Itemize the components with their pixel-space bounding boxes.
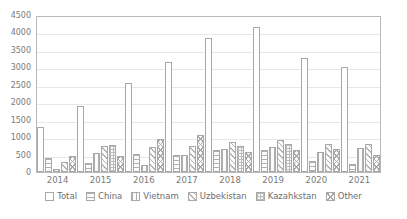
bar-china-2019: [261, 150, 268, 172]
bar-total-2014: [37, 127, 44, 172]
bar-china-2016: [133, 154, 140, 172]
bar-uzbekistan-2016: [149, 147, 156, 172]
legend-item-label: Kazahkstan: [268, 192, 317, 201]
bar-total-2015: [77, 106, 84, 172]
y-axis-tick-label: 500: [16, 152, 31, 160]
bar-vietnam-2019: [269, 147, 276, 172]
legend-item-label: Vietnam: [143, 192, 178, 201]
y-axis: 450040003500300025002000150010005000: [0, 16, 34, 173]
bar-china-2020: [309, 161, 316, 173]
legend-item-uzbekistan[interactable]: Uzbekistan: [188, 192, 247, 201]
bar-group-2021: [341, 17, 380, 172]
bar-total-2017: [165, 62, 172, 172]
bar-other-2016: [157, 139, 164, 172]
y-axis-tick-label: 4500: [11, 12, 31, 20]
bar-total-2021: [341, 67, 348, 172]
y-axis-tick-label: 2500: [11, 82, 31, 90]
bar-china-2018: [213, 150, 220, 172]
bar-group-2014: [37, 17, 76, 172]
bar-other-2020: [333, 149, 340, 172]
bar-total-2018: [205, 38, 212, 172]
bar-other-2014: [69, 156, 76, 172]
bar-kazahkstan-2015: [109, 145, 116, 172]
legend-swatch-other-icon: [326, 192, 335, 201]
legend-item-other[interactable]: Other: [326, 192, 362, 201]
legend-item-label: Total: [57, 192, 77, 201]
bar-vietnam-2016: [141, 165, 148, 172]
bar-china-2017: [173, 155, 180, 172]
bar-group-2015: [77, 17, 124, 172]
bar-uzbekistan-2019: [277, 140, 284, 172]
bar-uzbekistan-2015: [101, 146, 108, 172]
bar-uzbekistan-2020: [325, 144, 332, 172]
bar-total-2016: [125, 83, 132, 172]
legend-swatch-total-icon: [45, 192, 54, 201]
bar-total-2020: [301, 58, 308, 172]
legend-item-vietnam[interactable]: Vietnam: [131, 192, 178, 201]
bar-vietnam-2015: [93, 153, 100, 172]
chart-legend: TotalChinaVietnamUzbekistanKazahkstanOth…: [0, 192, 407, 201]
bar-group-2019: [253, 17, 300, 172]
bar-uzbekistan-2018: [229, 142, 236, 172]
bar-group-2020: [301, 17, 340, 172]
bar-china-2015: [85, 163, 92, 172]
bar-uzbekistan-2017: [189, 146, 196, 173]
legend-swatch-uzbekistan-icon: [188, 192, 197, 201]
bar-total-2019: [253, 27, 260, 172]
legend-item-label: China: [98, 192, 122, 201]
legend-swatch-vietnam-icon: [131, 192, 140, 201]
bar-china-2014: [45, 158, 52, 172]
bar-china-2021: [349, 164, 356, 172]
y-axis-tick-label: 4000: [11, 29, 31, 37]
y-axis-tick-label: 1500: [11, 117, 31, 125]
bar-uzbekistan-2021: [365, 144, 372, 172]
y-axis-tick-label: 0: [26, 169, 31, 177]
bar-other-2018: [245, 152, 252, 172]
x-axis-tick-label: 2015: [81, 175, 121, 185]
x-axis-tick-label: 2016: [124, 175, 164, 185]
legend-item-label: Other: [338, 192, 362, 201]
bar-other-2015: [117, 156, 124, 172]
legend-item-kazahkstan[interactable]: Kazahkstan: [256, 192, 317, 201]
x-axis-tick-label: 2021: [339, 175, 379, 185]
bar-vietnam-2021: [357, 148, 364, 172]
bar-other-2019: [293, 150, 300, 172]
y-axis-tick-label: 3000: [11, 64, 31, 72]
bar-kazahkstan-2019: [285, 144, 292, 172]
x-axis-tick-label: 2020: [296, 175, 336, 185]
legend-item-china[interactable]: China: [86, 192, 122, 201]
bar-other-2017: [197, 135, 204, 172]
x-axis: 20142015201620172018201920202021: [36, 175, 381, 189]
bar-kazahkstan-2018: [237, 146, 244, 173]
plot-area: [36, 16, 381, 173]
bar-other-2021: [373, 155, 380, 172]
bar-group-2018: [205, 17, 252, 172]
bar-group-2017: [165, 17, 204, 172]
bar-chart: 450040003500300025002000150010005000 201…: [0, 0, 407, 219]
bar-vietnam-2014: [53, 169, 60, 172]
x-axis-tick-label: 2019: [253, 175, 293, 185]
y-axis-tick-label: 3500: [11, 47, 31, 55]
y-axis-tick-label: 1000: [11, 134, 31, 142]
legend-item-total[interactable]: Total: [45, 192, 77, 201]
x-axis-tick-label: 2017: [167, 175, 207, 185]
legend-swatch-kazahkstan-icon: [256, 192, 265, 201]
x-axis-tick-label: 2014: [38, 175, 78, 185]
bar-vietnam-2018: [221, 149, 228, 172]
y-axis-tick-label: 2000: [11, 99, 31, 107]
bars-layer: [37, 17, 380, 172]
bar-vietnam-2020: [317, 152, 324, 172]
x-axis-tick-label: 2018: [210, 175, 250, 185]
bar-vietnam-2017: [181, 155, 188, 172]
bar-group-2016: [125, 17, 164, 172]
legend-swatch-china-icon: [86, 192, 95, 201]
legend-item-label: Uzbekistan: [200, 192, 247, 201]
bar-uzbekistan-2014: [61, 162, 68, 172]
